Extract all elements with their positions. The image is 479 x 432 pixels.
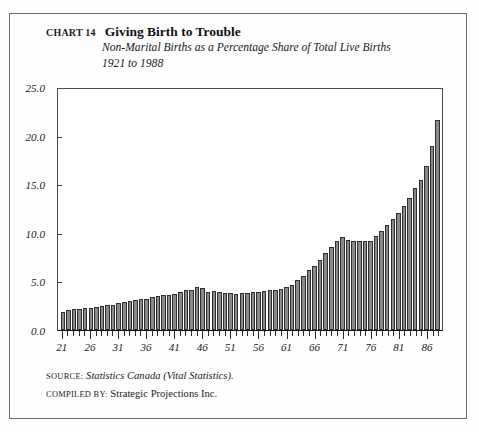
x-tick-mark	[79, 331, 80, 336]
y-tick-label: 25.0	[25, 82, 45, 94]
bar	[212, 291, 217, 330]
x-tick-mark	[146, 331, 147, 339]
x-tick-mark	[90, 331, 91, 339]
x-tick-mark	[101, 331, 102, 336]
y-tick-label: 0.0	[31, 325, 45, 337]
bar	[374, 236, 379, 330]
bar	[94, 307, 99, 330]
x-tick-mark	[219, 331, 220, 336]
bar	[346, 240, 351, 330]
source-value: Statistics Canada (Vital Statistics).	[86, 370, 234, 381]
bar	[161, 295, 166, 330]
x-tick-label: 31	[112, 341, 123, 353]
bar	[329, 247, 334, 330]
x-tick-mark	[287, 331, 288, 339]
x-tick-mark	[124, 331, 125, 336]
bar	[228, 293, 233, 330]
x-tick-label: 21	[56, 341, 67, 353]
x-tick-label: 36	[141, 341, 152, 353]
x-tick-mark	[360, 331, 361, 336]
x-tick-mark	[84, 331, 85, 336]
x-tick-label: 86	[421, 341, 432, 353]
x-tick-mark	[135, 331, 136, 336]
x-tick-mark	[393, 331, 394, 336]
x-tick-mark	[315, 331, 316, 339]
bar	[430, 146, 435, 330]
compiled-line: Compiled by: Strategic Projections Inc.	[46, 388, 446, 399]
bar	[223, 293, 228, 330]
bar	[290, 285, 295, 330]
x-tick-label: 66	[309, 341, 320, 353]
x-tick-mark	[213, 331, 214, 336]
x-tick-mark	[281, 331, 282, 336]
chart-figure: CHART 14 Giving Birth to Trouble Non-Mar…	[0, 0, 479, 432]
y-tick-mark	[57, 282, 62, 283]
x-axis-labels: 2126313641465156616671768186	[57, 341, 443, 357]
x-tick-mark	[388, 331, 389, 336]
bar	[335, 241, 340, 330]
x-tick-mark	[202, 331, 203, 339]
bar	[312, 266, 317, 330]
bar	[144, 299, 149, 330]
x-tick-mark	[253, 331, 254, 336]
y-tick-mark	[57, 185, 62, 186]
bar	[184, 290, 189, 330]
x-tick-mark	[247, 331, 248, 336]
bar	[279, 289, 284, 330]
x-tick-mark	[197, 331, 198, 336]
bar	[351, 241, 356, 330]
bar	[189, 290, 194, 330]
x-tick-mark	[410, 331, 411, 336]
y-tick-mark	[57, 137, 62, 138]
x-tick-mark	[264, 331, 265, 336]
x-tick-label: 41	[169, 341, 180, 353]
bar	[268, 290, 273, 330]
bar	[111, 305, 116, 330]
x-tick-mark	[140, 331, 141, 336]
x-tick-label: 76	[365, 341, 376, 353]
bar	[150, 297, 155, 330]
bar	[240, 293, 245, 330]
y-tick-label: 15.0	[25, 179, 45, 191]
bar	[139, 299, 144, 330]
x-tick-mark	[399, 331, 400, 339]
x-tick-mark	[371, 331, 372, 339]
x-tick-mark	[298, 331, 299, 336]
bar	[273, 290, 278, 330]
x-tick-mark	[275, 331, 276, 336]
bar	[122, 302, 127, 330]
bar	[116, 303, 121, 330]
bar	[77, 309, 82, 330]
bar	[396, 213, 401, 330]
chart-subtitle-line1: Non-Marital Births as a Percentage Share…	[102, 40, 456, 56]
plot-area	[57, 88, 443, 331]
x-tick-label: 46	[197, 341, 208, 353]
bar	[413, 188, 418, 330]
bar	[357, 241, 362, 330]
x-tick-label: 61	[281, 341, 292, 353]
x-tick-mark	[416, 331, 417, 336]
bar	[128, 301, 133, 330]
x-tick-mark	[112, 331, 113, 336]
x-tick-label: 56	[253, 341, 264, 353]
bar	[318, 260, 323, 330]
x-axis-ticks	[57, 331, 443, 340]
bar	[368, 241, 373, 330]
x-tick-mark	[292, 331, 293, 336]
y-tick-label: 20.0	[25, 131, 45, 143]
bar	[295, 280, 300, 330]
x-tick-mark	[118, 331, 119, 339]
x-tick-mark	[225, 331, 226, 336]
bar	[435, 120, 440, 330]
bar	[133, 300, 138, 330]
bar	[391, 219, 396, 330]
x-tick-label: 26	[84, 341, 95, 353]
x-tick-mark	[174, 331, 175, 339]
bar	[100, 306, 105, 330]
bar	[156, 296, 161, 330]
bar	[301, 276, 306, 330]
x-tick-mark	[236, 331, 237, 336]
x-tick-mark	[320, 331, 321, 336]
x-tick-mark	[365, 331, 366, 336]
bar	[407, 198, 412, 330]
